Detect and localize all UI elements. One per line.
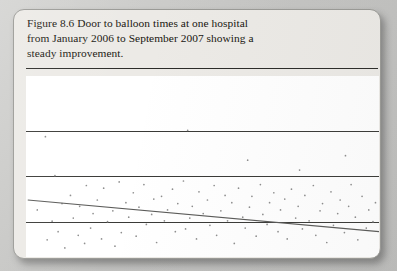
caption-line-3: steady improvement. xyxy=(27,46,357,61)
figure-caption: Figure 8.6 Door to balloon times at one … xyxy=(27,16,357,61)
caption-line-2: from January 2006 to September 2007 show… xyxy=(27,31,357,46)
caption-divider xyxy=(26,68,378,69)
trend-line-layer xyxy=(26,76,379,257)
scatter-plot xyxy=(26,76,379,257)
trend-line xyxy=(28,200,379,232)
figure-card: Figure 8.6 Door to balloon times at one … xyxy=(13,9,381,259)
caption-line-1: Figure 8.6 Door to balloon times at one … xyxy=(27,16,357,31)
